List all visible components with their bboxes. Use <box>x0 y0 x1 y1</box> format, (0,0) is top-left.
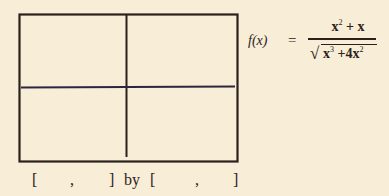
numerator: x2 + x <box>318 18 378 35</box>
x-range-close-bracket: ] <box>109 171 114 189</box>
y-range-close-bracket: ] <box>233 171 238 189</box>
x-range-open-bracket: [ <box>32 171 37 189</box>
function-name: f(x) <box>248 33 267 49</box>
y-range-open-bracket: [ <box>150 171 155 189</box>
radicand: x3 +4x2 <box>323 45 363 62</box>
y-range-comma: , <box>195 171 199 189</box>
function-formula: f(x) = x2 + x √ x3 +4x2 <box>248 18 383 66</box>
by-label: by <box>124 171 140 189</box>
x-range-comma: , <box>70 171 74 189</box>
fraction-bar <box>308 38 376 40</box>
equals-sign: = <box>288 32 296 49</box>
x-axis <box>21 87 235 88</box>
square-root-icon: √ <box>310 44 319 64</box>
